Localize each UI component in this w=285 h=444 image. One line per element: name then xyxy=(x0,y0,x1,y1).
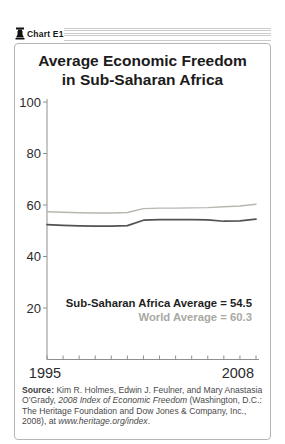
source-citation: Source: Kim R. Holmes, Edwin J. Feulner,… xyxy=(22,385,266,427)
annotation-ssa: Sub-Saharan Africa Average = 54.5 xyxy=(60,297,252,311)
svg-text:40: 40 xyxy=(27,249,41,264)
annotation-world: World Average = 60.3 xyxy=(60,311,252,325)
source-url: www.heritage.org/index xyxy=(58,416,147,426)
chart-plot: 2040608010019952008 xyxy=(0,0,285,444)
svg-text:1995: 1995 xyxy=(29,365,61,381)
svg-text:100: 100 xyxy=(19,95,41,110)
svg-text:2008: 2008 xyxy=(222,365,254,381)
source-period: . xyxy=(148,416,150,426)
source-label: Source: xyxy=(22,385,56,395)
svg-text:20: 20 xyxy=(27,301,41,316)
source-book-title: 2008 Index of Economic Freedom xyxy=(58,395,187,405)
svg-text:80: 80 xyxy=(27,146,41,161)
svg-text:60: 60 xyxy=(27,198,41,213)
page: Chart E1 Average Economic Freedom in Sub… xyxy=(0,0,285,444)
